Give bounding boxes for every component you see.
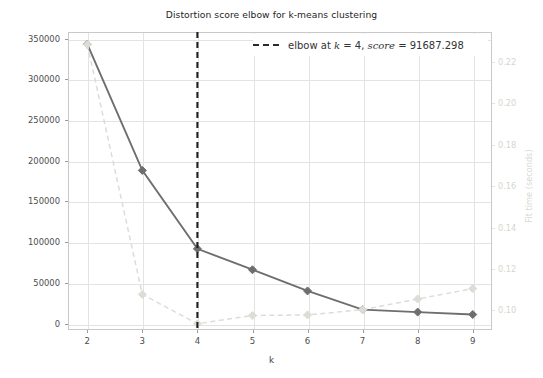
- gridline-vertical: [88, 33, 89, 329]
- chart-title: Distortion score elbow for k-means clust…: [0, 9, 543, 20]
- x-tick-mark: [253, 330, 254, 333]
- x-tick-label: 3: [122, 336, 162, 346]
- y-tick-mark: [65, 201, 68, 202]
- legend[interactable]: elbow at k = 4, score = 91687.298: [253, 34, 488, 56]
- legend-entry-label: elbow at k = 4, score = 91687.298: [288, 40, 464, 51]
- y2-tick-label: 0.18: [498, 140, 538, 150]
- x-tick-label: 2: [67, 336, 107, 346]
- y2-tick-mark: [492, 103, 495, 104]
- legend-k-value: = 4,: [340, 40, 367, 51]
- y2-tick-mark: [492, 145, 495, 146]
- gridline-horizontal: [69, 80, 491, 81]
- gridline-vertical: [474, 33, 475, 329]
- y2-tick-label: 0.22: [498, 57, 538, 67]
- y-tick-label: 50000: [2, 278, 60, 288]
- gridline-vertical: [309, 33, 310, 329]
- gridline-vertical: [254, 33, 255, 329]
- gridline-vertical: [198, 33, 199, 329]
- legend-dash-icon: [253, 44, 279, 46]
- y-tick-label: 350000: [2, 34, 60, 44]
- y-tick-label: 100000: [2, 237, 60, 247]
- gridline-horizontal: [69, 121, 491, 122]
- y2-tick-label: 0.10: [498, 305, 538, 315]
- y2-tick-mark: [492, 228, 495, 229]
- y-tick-label: 0: [2, 319, 60, 329]
- legend-score-symbol: score: [368, 40, 395, 51]
- y-tick-mark: [65, 242, 68, 243]
- x-tick-label: 5: [233, 336, 273, 346]
- gridline-horizontal: [69, 284, 491, 285]
- y2-tick-mark: [492, 310, 495, 311]
- x-tick-label: 6: [288, 336, 328, 346]
- x-tick-mark: [363, 330, 364, 333]
- x-tick-mark: [308, 330, 309, 333]
- legend-prefix: elbow at: [288, 40, 334, 51]
- x-tick-label: 4: [177, 336, 217, 346]
- y2-tick-mark: [492, 269, 495, 270]
- y-tick-mark: [65, 39, 68, 40]
- x-tick-label: 9: [453, 336, 493, 346]
- x-tick-mark: [418, 330, 419, 333]
- y-tick-mark: [65, 283, 68, 284]
- y-tick-label: 200000: [2, 156, 60, 166]
- x-axis-label: k: [0, 355, 543, 365]
- x-tick-mark: [197, 330, 198, 333]
- y-tick-label: 300000: [2, 74, 60, 84]
- y2-tick-mark: [492, 62, 495, 63]
- legend-score-value: = 91687.298: [395, 40, 464, 51]
- x-tick-mark: [473, 330, 474, 333]
- gridline-horizontal: [69, 243, 491, 244]
- gridline-vertical: [364, 33, 365, 329]
- gridline-horizontal: [69, 162, 491, 163]
- gridline-vertical: [419, 33, 420, 329]
- y-tick-mark: [65, 324, 68, 325]
- plot-area: [68, 32, 492, 330]
- y2-tick-label: 0.14: [498, 223, 538, 233]
- gridline-horizontal: [69, 325, 491, 326]
- gridline-vertical: [143, 33, 144, 329]
- y-tick-label: 150000: [2, 196, 60, 206]
- x-tick-mark: [87, 330, 88, 333]
- figure: Distortion score elbow for k-means clust…: [0, 0, 543, 378]
- x-tick-label: 7: [343, 336, 383, 346]
- x-tick-mark: [142, 330, 143, 333]
- y-tick-mark: [65, 161, 68, 162]
- gridline-horizontal: [69, 202, 491, 203]
- y2-tick-label: 0.12: [498, 264, 538, 274]
- y2-axis-label: Fit time (seconds): [524, 149, 534, 222]
- y-tick-mark: [65, 120, 68, 121]
- y2-tick-label: 0.20: [498, 98, 538, 108]
- y-tick-mark: [65, 79, 68, 80]
- x-tick-label: 8: [398, 336, 438, 346]
- y-tick-label: 250000: [2, 115, 60, 125]
- y2-tick-mark: [492, 186, 495, 187]
